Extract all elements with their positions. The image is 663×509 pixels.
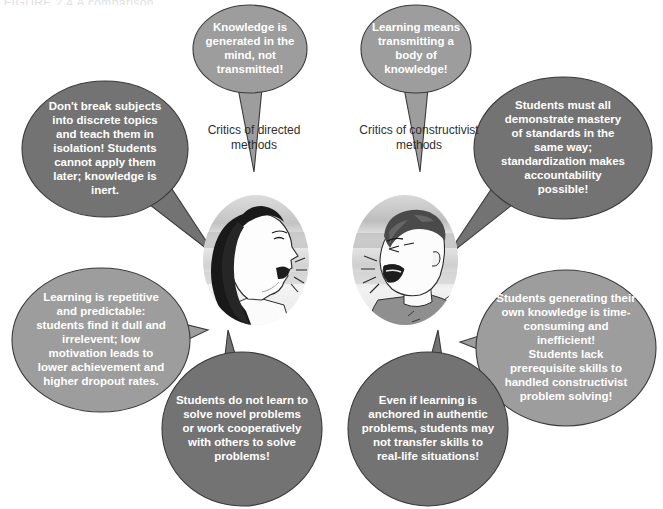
bubble-learning-is-repetitive[interactable]: Learning is repetitiveand predictable:st… [12,268,190,412]
portrait-woman-shouting [203,195,309,332]
bubble-dont-break-subjects[interactable]: Don't break subjectsinto discrete topics… [22,81,188,217]
bubble-students-do-not-learn-novel-problems[interactable]: Students do not learn tosolve novel prob… [162,352,322,506]
label-critics-of-directed-methods: Critics of directedmethods [208,123,301,152]
portrait-man-shouting [352,195,462,330]
bubble-even-if-learning-anchored[interactable]: Even if learning isanchored in authentic… [348,352,508,506]
bubble-knowledge-generated[interactable]: Knowledge isgenerated in themind, nottra… [193,5,307,93]
bubble-students-must-demonstrate-mastery[interactable]: Students must alldemonstrate masteryof s… [474,77,652,219]
label-critics-of-constructivist-methods: Critics of constructivistmethods [359,123,479,152]
speech-bubble-diagram: Knowledge isgenerated in themind, nottra… [0,0,663,509]
bubble-learning-means-transmitting[interactable]: Learning meanstransmitting abody ofknowl… [361,5,471,93]
diagram-canvas: Knowledge isgenerated in themind, nottra… [0,0,663,509]
bubble-dont-break-subjects-text: Don't break subjectsinto discrete topics… [49,100,162,196]
bubble-even-if-learning-anchored-text: Even if learning isanchored in authentic… [362,394,495,462]
